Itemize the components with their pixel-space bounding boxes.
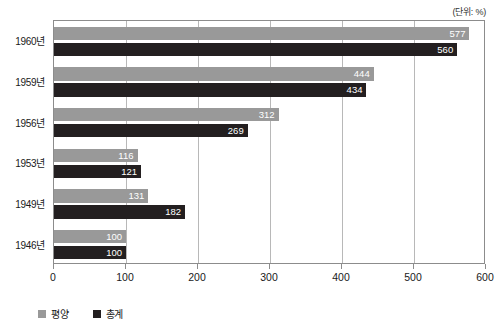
bar-rows: 577560444434312269116121131182100100: [54, 21, 484, 263]
x-tick-label-300: 300: [260, 271, 278, 283]
x-tick-mark: [341, 264, 342, 269]
bar-value-label: 116: [118, 151, 133, 161]
bar-평양-1956년: 312: [54, 108, 279, 122]
bar-row: 116121: [54, 143, 484, 184]
x-tick-label-200: 200: [188, 271, 206, 283]
legend: 평양총계: [38, 306, 123, 321]
bar-평양-1959년: 444: [54, 67, 374, 81]
plot-area: 577560444434312269116121131182100100: [53, 20, 485, 264]
bar-row: 131182: [54, 184, 484, 225]
legend-item-평양[interactable]: 평양: [38, 306, 69, 321]
bar-평양-1949년: 131: [54, 189, 148, 203]
category-label-1960년: 1960년: [15, 33, 45, 48]
bar-value-label: 100: [106, 248, 122, 258]
bar-평양-1953년: 116: [54, 149, 138, 163]
bar-value-label: 577: [450, 29, 466, 39]
bar-총계-1960년: 560: [54, 43, 457, 57]
unit-note: (단위: %): [452, 5, 486, 18]
bar-chart: (단위: %) 57756044443431226911612113118210…: [0, 0, 502, 332]
bar-총계-1956년: 269: [54, 124, 248, 138]
category-axis: 1960년1959년1956년1953년1949년1946년: [0, 20, 50, 264]
legend-item-총계[interactable]: 총계: [93, 306, 124, 321]
bar-총계-1953년: 121: [54, 165, 141, 179]
bar-value-label: 434: [347, 85, 363, 95]
bar-row: 100100: [54, 224, 484, 265]
legend-label: 총계: [106, 306, 124, 321]
x-tick-mark: [485, 264, 486, 269]
bar-row: 444434: [54, 62, 484, 103]
bar-value-label: 121: [121, 167, 137, 177]
x-tick-label-600: 600: [476, 271, 494, 283]
bar-value-label: 269: [228, 126, 244, 136]
bar-value-label: 182: [165, 207, 181, 217]
bar-value-label: 444: [354, 69, 370, 79]
legend-label: 평양: [51, 306, 69, 321]
bar-row: 577560: [54, 21, 484, 62]
x-tick-mark: [53, 264, 54, 269]
x-tick-mark: [125, 264, 126, 269]
bar-value-label: 100: [106, 232, 122, 242]
bar-총계-1946년: 100: [54, 246, 126, 260]
x-tick-label-400: 400: [332, 271, 350, 283]
category-label-1959년: 1959년: [15, 74, 45, 89]
category-label-1956년: 1956년: [15, 114, 45, 129]
bar-총계-1959년: 434: [54, 83, 366, 97]
x-tick-label-0: 0: [50, 271, 56, 283]
bar-row: 312269: [54, 102, 484, 143]
bar-평양-1960년: 577: [54, 27, 469, 41]
x-tick-label-100: 100: [116, 271, 134, 283]
category-label-1946년: 1946년: [15, 236, 45, 251]
x-tick-mark: [269, 264, 270, 269]
x-tick-mark: [413, 264, 414, 269]
bar-value-label: 312: [259, 110, 275, 120]
bar-value-label: 131: [128, 191, 144, 201]
bar-총계-1949년: 182: [54, 205, 185, 219]
bar-value-label: 560: [437, 45, 453, 55]
x-tick-label-500: 500: [404, 271, 422, 283]
category-label-1953년: 1953년: [15, 155, 45, 170]
bar-평양-1946년: 100: [54, 230, 126, 244]
value-axis: 0100200300400500600: [53, 264, 485, 288]
category-label-1949년: 1949년: [15, 196, 45, 211]
legend-swatch-icon: [93, 310, 101, 318]
x-tick-mark: [197, 264, 198, 269]
legend-swatch-icon: [38, 310, 46, 318]
